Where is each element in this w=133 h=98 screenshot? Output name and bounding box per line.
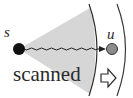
node-u-label: u bbox=[107, 26, 115, 42]
node-s-label: s bbox=[4, 24, 10, 40]
arrowhead-icon bbox=[99, 46, 106, 52]
outer-frontier-arc bbox=[117, 4, 126, 96]
node-u bbox=[107, 44, 118, 55]
frontier-arrow-icon bbox=[101, 69, 116, 87]
scan-diagram: s u scanned bbox=[0, 0, 133, 98]
scanned-label: scanned bbox=[13, 62, 81, 86]
node-s bbox=[13, 43, 25, 55]
